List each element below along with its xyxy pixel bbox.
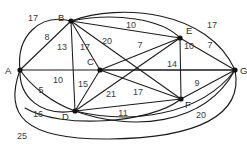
vertex-B[interactable] [68, 18, 73, 23]
weight-A-D-arc: 16 [33, 109, 43, 119]
vertex-label-B: B [58, 12, 64, 23]
weight-A-C: 10 [53, 75, 63, 85]
weight-C-D: 15 [78, 79, 88, 89]
vertex-C[interactable] [97, 67, 102, 72]
weight-A-B-arc: 17 [28, 13, 38, 23]
weight-B-D: 17 [80, 42, 90, 52]
weight-E-F: 10 [184, 41, 194, 51]
graph-canvas: A B C D E F G 17 8 13 17 20 10 17 7 10 7… [0, 0, 247, 144]
weight-B-G-arc: 17 [207, 20, 217, 30]
weight-D-F: 11 [118, 108, 127, 118]
vertex-label-A: A [5, 65, 12, 76]
weight-E-G: 7 [207, 40, 212, 50]
vertex-G[interactable] [232, 67, 237, 72]
vertex-label-E: E [186, 25, 192, 36]
weight-F-G: 9 [194, 78, 199, 88]
edge-E-F [180, 38, 181, 99]
vertex-label-F: F [185, 99, 191, 110]
weight-B-E: 10 [126, 20, 136, 30]
weight-B-C: 13 [57, 42, 67, 52]
vertex-E[interactable] [177, 35, 182, 40]
edge-D-E [75, 38, 180, 111]
weight-B-F: 20 [102, 36, 112, 46]
weight-D-E: 21 [106, 89, 116, 99]
vertex-F[interactable] [178, 96, 183, 101]
vertex-A[interactable] [17, 67, 22, 72]
weight-C-G: 14 [167, 59, 177, 69]
graph-diagram: A B C D E F G 17 8 13 17 20 10 17 7 10 7… [0, 0, 247, 144]
vertex-label-D: D [62, 111, 69, 122]
weight-D-G-arc: 20 [196, 110, 206, 120]
vertex-label-C: C [87, 56, 94, 67]
weight-C-E: 7 [137, 40, 142, 50]
edge-D-F [75, 99, 181, 111]
weight-C-F: 17 [133, 87, 143, 97]
straight-edge-group [20, 21, 235, 111]
vertex-label-G: G [240, 65, 247, 76]
weight-A-B: 8 [44, 32, 49, 42]
edge-B-D [71, 21, 75, 111]
weight-A-G-arc: 25 [17, 131, 27, 141]
vertex-D[interactable] [72, 108, 77, 113]
edge-D-G-inner-arc [75, 70, 235, 117]
edge-A-D-arc [20, 70, 75, 112]
edge-C-D [75, 70, 100, 111]
edge-A-D-curve [20, 70, 75, 111]
weight-A-D: 5 [38, 85, 43, 95]
